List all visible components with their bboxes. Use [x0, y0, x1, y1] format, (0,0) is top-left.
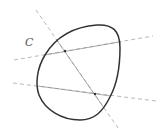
- closed-curve: [37, 25, 120, 120]
- intersection-point-upper: [64, 50, 66, 52]
- diagram-canvas: C: [0, 0, 166, 131]
- lower-line-inner: [38, 86, 111, 96]
- upper-line-inner: [45, 42, 119, 55]
- curve-label: C: [25, 36, 34, 49]
- diagonal-line-inner: [56, 39, 104, 108]
- lower-line-dashed: [13, 83, 156, 101]
- intersection-point-lower: [94, 93, 96, 95]
